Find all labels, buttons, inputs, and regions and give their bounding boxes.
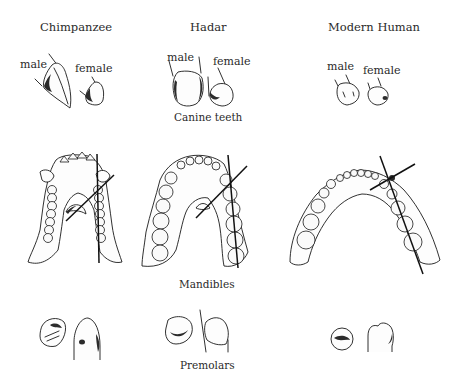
hadar-female-label: female: [213, 56, 251, 67]
hadar-male-label: male: [167, 52, 194, 63]
column-title-chimpanzee: Chimpanzee: [40, 22, 112, 34]
hadar-female-canine: [208, 68, 233, 106]
modern-human-premolars: [331, 323, 393, 352]
modern-human-male-canine: [335, 75, 359, 105]
chimpanzee-female-label: female: [75, 63, 113, 74]
modern-human-mandible: [290, 156, 440, 274]
hadar-mandible: [142, 155, 248, 268]
column-title-modern-human: Modern Human: [328, 22, 420, 34]
chimpanzee-female-canine: [80, 77, 104, 105]
chimpanzee-premolars: [40, 318, 100, 360]
premolars-caption: Premolars: [180, 360, 235, 371]
chimpanzee-male-label: male: [20, 59, 47, 70]
chimpanzee-mandible: [28, 152, 122, 263]
modern-human-male-label: male: [327, 61, 354, 72]
mandibles-caption: Mandibles: [179, 279, 235, 290]
column-title-hadar: Hadar: [190, 22, 227, 34]
canine-teeth-caption: Canine teeth: [174, 112, 242, 123]
modern-human-female-canine: [368, 78, 388, 105]
modern-human-female-label: female: [363, 65, 401, 76]
hadar-male-canine: [169, 57, 203, 106]
hadar-premolars: [165, 310, 228, 352]
